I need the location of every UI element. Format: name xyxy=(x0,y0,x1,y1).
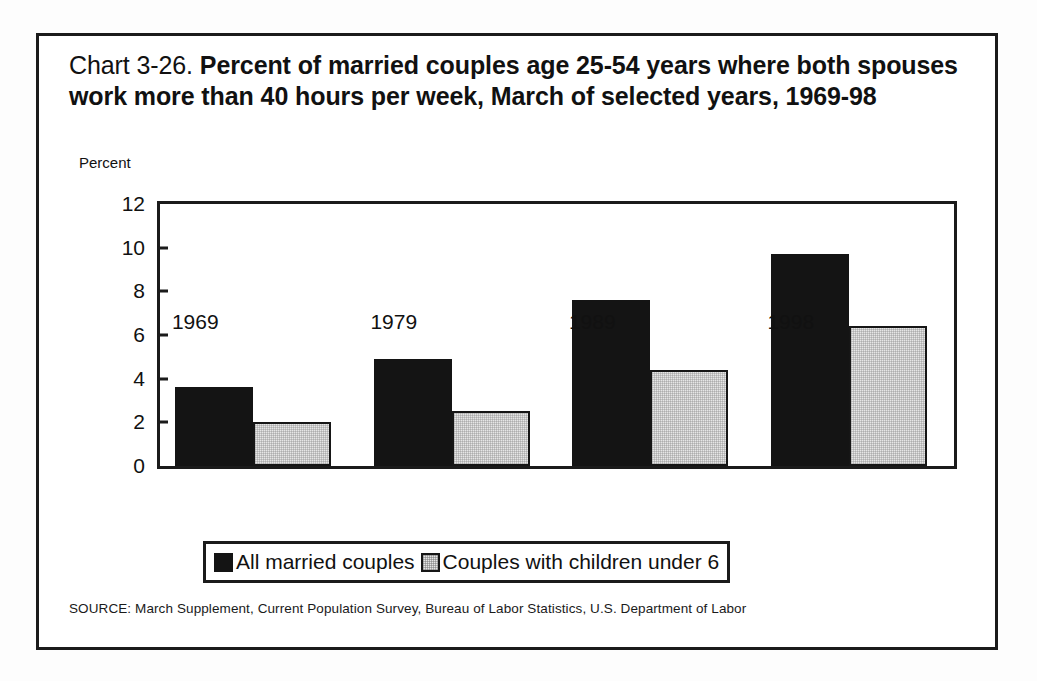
source-note: SOURCE: March Supplement, Current Popula… xyxy=(69,601,746,616)
y-tick-label: 4 xyxy=(89,367,145,391)
y-tick-label: 8 xyxy=(89,279,145,303)
y-tick-label: 10 xyxy=(89,236,145,260)
x-tick-label: 1969 xyxy=(172,310,219,334)
bar-1969-series1 xyxy=(175,387,253,466)
bar-1979-series1 xyxy=(374,359,452,466)
y-tick-label: 0 xyxy=(89,454,145,478)
legend-item-couples-with-children-under-6: Couples with children under 6 xyxy=(421,550,720,574)
x-tick-label: 1998 xyxy=(767,310,814,334)
y-tick-label: 2 xyxy=(89,410,145,434)
chart-number: Chart 3-26. xyxy=(69,51,193,79)
page-title: Chart 3-26. Percent of married couples a… xyxy=(69,50,959,112)
x-tick-label: 1979 xyxy=(370,310,417,334)
chart-title-text: Percent of married couples age 25-54 yea… xyxy=(69,51,958,110)
legend-label: Couples with children under 6 xyxy=(443,550,720,574)
legend: All married couples Couples with childre… xyxy=(203,541,730,583)
bar-1979-series2 xyxy=(452,411,530,466)
scanned-page: Chart 3-26. Percent of married couples a… xyxy=(0,0,1037,681)
y-axis-title: Percent xyxy=(79,154,131,171)
bar-1998-series1 xyxy=(771,254,849,466)
x-tick-label: 1989 xyxy=(569,310,616,334)
bar-1969-series2 xyxy=(253,422,331,466)
legend-item-all-married-couples: All married couples xyxy=(214,550,415,574)
legend-label: All married couples xyxy=(236,550,415,574)
bar-1998-series2 xyxy=(849,326,927,466)
y-tick-label: 12 xyxy=(89,192,145,216)
legend-swatch-light-icon xyxy=(421,553,440,572)
bar-1989-series2 xyxy=(650,370,728,466)
legend-swatch-dark-icon xyxy=(214,553,233,572)
figure-frame: Chart 3-26. Percent of married couples a… xyxy=(36,33,998,650)
x-axis: 1969197919891998 xyxy=(102,310,896,340)
